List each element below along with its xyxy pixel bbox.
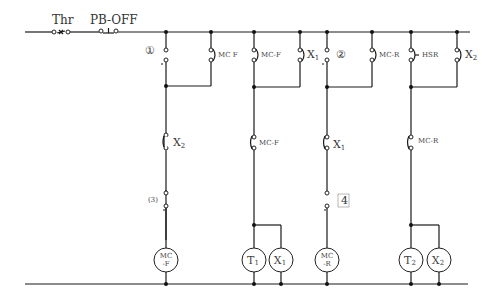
ladder-diagram: Thr PB-OFF ① MC F <box>0 0 497 306</box>
rung-2: MC-F X1 MC-F T1 X1 <box>242 30 319 286</box>
series-x2-label: X2 <box>173 136 185 150</box>
rung-4: HSR X2 MC-R T2 X2 <box>399 30 477 286</box>
coil-mc-r-line1: MC <box>321 252 334 260</box>
contact-mc-f-label: MC F <box>218 51 238 59</box>
contact-x1-label: X1 <box>307 48 319 62</box>
marker-4: 4 <box>341 194 348 207</box>
coil-mc-f-line1: MC <box>160 252 173 260</box>
rung-1: ① MC F X2 (3) MC -F <box>145 30 238 286</box>
contact-mc-r-label: MC-R <box>379 51 400 59</box>
pb-off-contact <box>99 28 118 33</box>
contact-mc-f-2-label: MC-F <box>261 51 281 59</box>
thr-label: Thr <box>52 13 74 27</box>
marker-2: ② <box>336 48 346 61</box>
marker-3: (3) <box>148 196 158 204</box>
top-bus: Thr PB-OFF <box>25 13 470 34</box>
rung-3: ② MC-R X1 4 MC -R <box>315 30 400 286</box>
series-x1-label: X1 <box>333 138 345 152</box>
series-mc-f-label: MC-F <box>259 139 279 147</box>
series-mc-r-label: MC-R <box>418 137 439 145</box>
thermal-relay-contact <box>52 30 70 34</box>
contact-x2-label: X2 <box>465 48 477 62</box>
contact-hsr-label: HSR <box>422 51 439 59</box>
coil-mc-r-line2: -R <box>323 260 331 268</box>
coil-mc-f-line2: -F <box>162 260 169 268</box>
marker-1: ① <box>145 44 155 57</box>
pb-off-label: PB-OFF <box>90 13 138 27</box>
